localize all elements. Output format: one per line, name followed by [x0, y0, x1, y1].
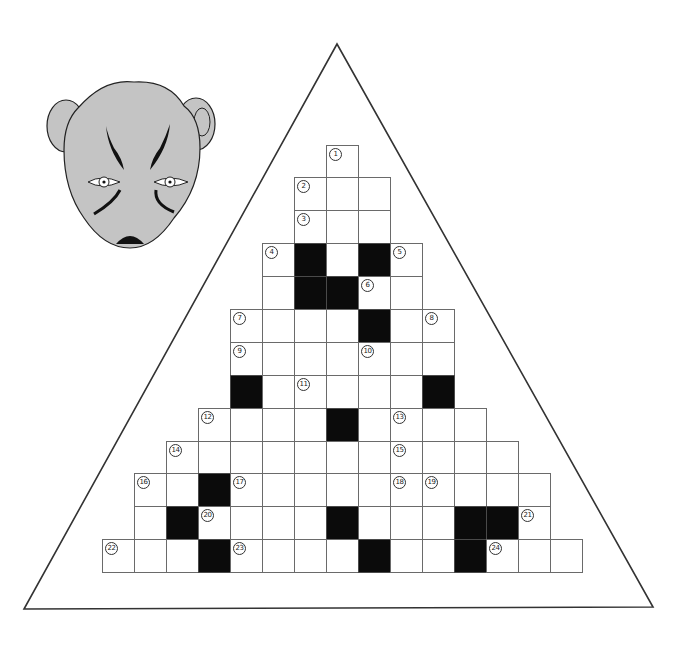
grid-cell[interactable]: 17 — [230, 473, 263, 507]
grid-cell[interactable] — [358, 506, 391, 540]
grid-cell[interactable] — [422, 539, 455, 573]
grid-cell[interactable] — [262, 309, 295, 343]
clue-number: 18 — [393, 476, 406, 489]
grid-cell[interactable] — [358, 441, 391, 474]
black-cell — [166, 506, 199, 540]
black-cell — [358, 243, 391, 277]
grid-cell[interactable] — [390, 506, 423, 540]
clue-number: 13 — [393, 411, 406, 424]
grid-cell[interactable] — [134, 539, 167, 573]
grid-cell[interactable]: 6 — [358, 276, 391, 310]
grid-cell[interactable]: 20 — [198, 506, 231, 540]
grid-cell[interactable] — [454, 473, 487, 507]
grid-cell[interactable] — [134, 506, 167, 540]
grid-cell[interactable] — [390, 539, 423, 573]
grid-cell[interactable]: 2 — [294, 177, 327, 211]
grid-cell[interactable] — [262, 506, 295, 540]
grid-cell[interactable] — [358, 473, 391, 507]
grid-cell[interactable]: 22 — [102, 539, 135, 573]
grid-cell[interactable] — [326, 539, 359, 573]
grid-cell[interactable] — [550, 539, 583, 573]
grid-cell[interactable] — [390, 375, 423, 409]
grid-cell[interactable] — [262, 473, 295, 507]
grid-cell[interactable] — [326, 210, 359, 244]
grid-cell[interactable]: 14 — [166, 441, 199, 474]
grid-cell[interactable] — [262, 441, 295, 474]
grid-cell[interactable] — [326, 473, 359, 507]
grid-cell[interactable]: 9 — [230, 342, 263, 376]
grid-cell[interactable] — [198, 441, 231, 474]
grid-cell[interactable] — [294, 342, 327, 376]
grid-cell[interactable] — [262, 408, 295, 442]
grid-cell[interactable] — [422, 506, 455, 540]
grid-cell[interactable] — [358, 375, 391, 409]
grid-cell[interactable] — [294, 441, 327, 474]
grid-cell[interactable] — [294, 473, 327, 507]
grid-cell[interactable]: 19 — [422, 473, 455, 507]
grid-cell[interactable]: 8 — [422, 309, 455, 343]
grid-cell[interactable] — [262, 539, 295, 573]
grid-cell[interactable]: 18 — [390, 473, 423, 507]
grid-cell[interactable] — [486, 441, 519, 474]
clue-number: 16 — [137, 476, 150, 489]
grid-cell[interactable]: 10 — [358, 342, 391, 376]
grid-cell[interactable] — [390, 276, 423, 310]
clue-number: 5 — [393, 246, 406, 259]
grid-cell[interactable]: 11 — [294, 375, 327, 409]
black-cell — [422, 375, 455, 409]
grid-cell[interactable]: 12 — [198, 408, 231, 442]
grid-cell[interactable]: 5 — [390, 243, 423, 277]
grid-cell[interactable] — [454, 408, 487, 442]
grid-cell[interactable] — [358, 408, 391, 442]
clue-number: 23 — [233, 542, 246, 555]
clue-number: 20 — [201, 509, 214, 522]
grid-cell[interactable] — [166, 539, 199, 573]
grid-cell[interactable] — [326, 375, 359, 409]
grid-cell[interactable]: 13 — [390, 408, 423, 442]
grid-cell[interactable] — [422, 342, 455, 376]
black-cell — [294, 276, 327, 310]
grid-cell[interactable]: 3 — [294, 210, 327, 244]
grid-cell[interactable] — [390, 309, 423, 343]
grid-cell[interactable] — [166, 473, 199, 507]
clue-number: 22 — [105, 542, 118, 555]
grid-cell[interactable] — [326, 441, 359, 474]
grid-cell[interactable]: 7 — [230, 309, 263, 343]
black-cell — [198, 473, 231, 507]
grid-cell[interactable] — [326, 243, 359, 277]
grid-cell[interactable] — [294, 539, 327, 573]
grid-cell[interactable] — [294, 309, 327, 343]
grid-cell[interactable] — [230, 408, 263, 442]
clue-number: 15 — [393, 444, 406, 457]
grid-cell[interactable]: 24 — [486, 539, 519, 573]
grid-cell[interactable] — [294, 506, 327, 540]
grid-cell[interactable] — [422, 441, 455, 474]
grid-cell[interactable] — [294, 408, 327, 442]
grid-cell[interactable] — [422, 408, 455, 442]
grid-cell[interactable]: 1 — [326, 145, 359, 178]
grid-cell[interactable] — [326, 309, 359, 343]
grid-cell[interactable] — [486, 473, 519, 507]
grid-cell[interactable]: 4 — [262, 243, 295, 277]
grid-cell[interactable] — [358, 210, 391, 244]
grid-cell[interactable] — [230, 506, 263, 540]
grid-cell[interactable] — [454, 441, 487, 474]
grid-cell[interactable] — [262, 276, 295, 310]
grid-cell[interactable] — [262, 342, 295, 376]
black-cell — [326, 506, 359, 540]
black-cell — [198, 539, 231, 573]
grid-cell[interactable] — [326, 342, 359, 376]
grid-cell[interactable] — [518, 539, 551, 573]
grid-cell[interactable]: 15 — [390, 441, 423, 474]
grid-cell[interactable]: 23 — [230, 539, 263, 573]
clue-number: 14 — [169, 444, 182, 457]
grid-cell[interactable] — [358, 177, 391, 211]
grid-cell[interactable] — [390, 342, 423, 376]
grid-cell[interactable] — [262, 375, 295, 409]
grid-cell[interactable] — [326, 177, 359, 211]
black-cell — [358, 309, 391, 343]
grid-cell[interactable]: 21 — [518, 506, 551, 540]
grid-cell[interactable]: 16 — [134, 473, 167, 507]
grid-cell[interactable] — [518, 473, 551, 507]
grid-cell[interactable] — [230, 441, 263, 474]
